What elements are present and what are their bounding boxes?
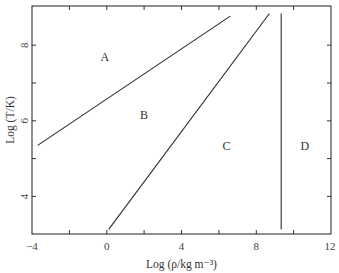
boundary-line-b-c [109, 14, 270, 230]
y-tick-label: 8 [18, 42, 30, 48]
y-tick-label: 6 [18, 118, 30, 124]
region-label-b: B [140, 108, 148, 122]
x-tick-label: 0 [104, 240, 110, 252]
y-axis-ticks [32, 45, 331, 196]
x-tick-label: −4 [26, 240, 38, 252]
x-axis-title: Log (ρ/kg m⁻³) [146, 258, 217, 271]
x-axis-ticks [69, 6, 293, 234]
x-tick-label: 8 [254, 240, 260, 252]
y-axis-title: Log (T/K) [4, 96, 17, 144]
y-tick-label: 4 [18, 193, 30, 199]
x-tick-label: 4 [179, 240, 185, 252]
plot-frame [32, 6, 331, 234]
x-tick-label: 12 [325, 240, 336, 252]
region-label-d: D [300, 139, 309, 153]
region-label-a: A [101, 50, 110, 64]
region-label-c: C [222, 139, 230, 153]
phase-diagram-chart: −4 0 4 8 12 4 6 8 Log (ρ/kg m⁻³) Log (T/… [0, 0, 339, 273]
boundary-line-a-b [38, 16, 231, 145]
